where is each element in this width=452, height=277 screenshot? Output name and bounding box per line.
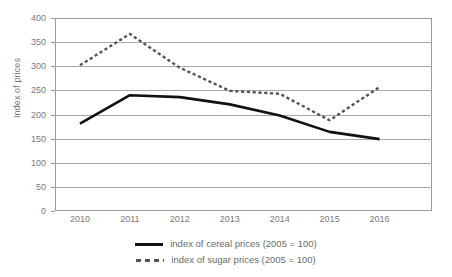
gridline [55,66,432,67]
gridline [55,42,432,43]
gridline [55,139,432,140]
y-tick-mark [51,66,55,67]
x-tick-label: 2016 [360,214,400,224]
line-chart: Index of prices 400350300250200150100500… [0,0,452,277]
x-tick-label: 2014 [260,214,300,224]
y-tick-mark [51,163,55,164]
legend-item-cereal: index of cereal prices (2005 = 100) [0,236,452,252]
plot-top-border [55,18,432,19]
y-tick-mark [51,187,55,188]
legend-label-cereal: index of cereal prices (2005 = 100) [170,239,317,249]
x-tick-label: 2015 [310,214,350,224]
y-tick-mark [51,90,55,91]
y-tick-mark [51,115,55,116]
y-tick-label: 300 [12,62,46,71]
legend-label-sugar: index of sugar prices (2005 = 100) [171,255,315,265]
dotted-line-marker-icon [136,255,164,265]
y-tick-label: 50 [12,183,46,192]
gridline [55,163,432,164]
gridline [55,115,432,116]
y-tick-mark [51,42,55,43]
y-tick-label: 350 [12,38,46,47]
x-tick-label: 2012 [160,214,200,224]
gridline [55,187,432,188]
x-tick-label: 2013 [210,214,250,224]
y-tick-label: 0 [12,207,46,216]
x-tick-label: 2011 [110,214,150,224]
y-tick-mark [51,18,55,19]
y-tick-mark [51,211,55,212]
y-tick-mark [51,139,55,140]
chart-legend: index of cereal prices (2005 = 100) inde… [0,236,452,268]
y-tick-label: 250 [12,86,46,95]
y-tick-label: 150 [12,135,46,144]
y-tick-label: 200 [12,111,46,120]
y-tick-label: 400 [12,14,46,23]
x-tick-label: 2010 [60,214,100,224]
legend-item-sugar: index of sugar prices (2005 = 100) [0,252,452,268]
solid-line-marker-icon [135,239,163,249]
gridline [55,90,432,91]
y-tick-label: 100 [12,159,46,168]
